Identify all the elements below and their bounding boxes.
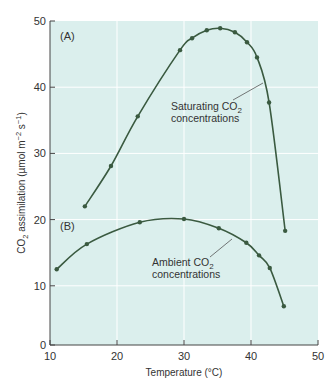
- data-point: [268, 266, 272, 270]
- x-tick-label: 20: [111, 350, 123, 362]
- data-point: [282, 304, 286, 308]
- data-point: [109, 164, 113, 168]
- y-tick-label: 50: [34, 15, 46, 27]
- data-point: [178, 48, 182, 52]
- annotation-a: Saturating CO2 concentrations: [171, 100, 245, 124]
- y-tick-label: 20: [34, 214, 46, 226]
- y-tick-label: 0: [40, 339, 46, 351]
- data-point: [182, 217, 186, 221]
- y-tick-label: 30: [34, 147, 46, 159]
- x-tick-label: 10: [44, 350, 56, 362]
- panel-label-a: (A): [60, 30, 75, 42]
- x-tick-label: 40: [245, 350, 257, 362]
- x-tick-label: 50: [312, 350, 324, 362]
- x-tick-label: 30: [178, 350, 190, 362]
- data-point: [85, 242, 89, 246]
- chart: 102030405001020304050 (A) (B) Saturating…: [0, 0, 334, 385]
- panel-label-b: (B): [60, 220, 75, 232]
- data-point: [245, 40, 249, 44]
- data-point: [233, 30, 237, 34]
- data-point: [283, 229, 287, 233]
- y-tick-label: 10: [34, 280, 46, 292]
- data-point: [244, 241, 248, 245]
- data-point: [138, 220, 142, 224]
- data-point: [136, 114, 140, 118]
- data-point: [257, 253, 261, 257]
- data-point: [83, 204, 87, 208]
- data-point: [218, 26, 222, 30]
- data-point: [190, 36, 194, 40]
- data-point: [255, 55, 259, 59]
- data-point: [55, 267, 59, 271]
- data-point: [267, 100, 271, 104]
- x-axis-title: Temperature (°C): [146, 367, 223, 378]
- data-point: [217, 226, 221, 230]
- data-point: [205, 28, 209, 32]
- y-axis-title: CO2 assimilation (µmol m−2 s−1): [14, 112, 30, 254]
- y-tick-label: 40: [34, 81, 46, 93]
